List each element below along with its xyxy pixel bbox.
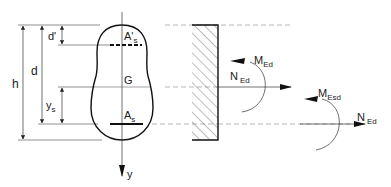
label-ys: ys xyxy=(46,99,56,114)
moment-arrowhead-centroid xyxy=(230,58,245,64)
label-y-axis: y xyxy=(127,168,133,180)
label-moment-reinforcement: MEsd xyxy=(318,87,341,102)
label-normal-centroid: NEd xyxy=(230,70,250,85)
label-d: d xyxy=(31,64,38,78)
moment-arrow-reinforcement xyxy=(316,99,339,150)
moment-arrowhead-reinforcement xyxy=(304,96,318,102)
label-top-reinforcement: A's xyxy=(124,30,137,45)
wall-support-hatch xyxy=(192,25,218,140)
label-h: h xyxy=(12,77,19,91)
label-centroid: G xyxy=(124,74,133,86)
label-moment-centroid: MEd xyxy=(254,54,273,69)
label-d-prime: d' xyxy=(48,30,56,42)
label-bottom-reinforcement: As xyxy=(124,109,135,124)
section-forces-diagram: h d d' ys y A's G As MEd NEd MEsd NEd xyxy=(0,0,391,187)
